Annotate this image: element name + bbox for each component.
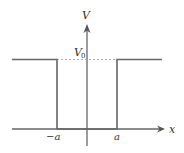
potential-well-diagram: x V V 0 −a a [0,0,184,153]
y-axis-label: V [82,9,91,22]
right-wall-label: a [114,131,120,142]
x-axis-label: x [169,123,176,136]
left-wall-label: −a [46,131,60,142]
v0-subscript: 0 [81,52,85,60]
